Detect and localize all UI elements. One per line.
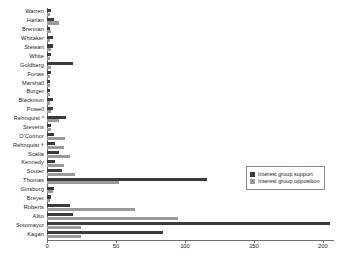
chart-row: Rehnquist † (47, 141, 334, 150)
bar-support (47, 80, 50, 83)
chart-row: Roberts (47, 203, 334, 212)
category-label: Scalia (28, 152, 44, 158)
bar-chart: WarrenHarlanBrennanWhitakerStewartWhiteG… (0, 0, 341, 266)
bar-opposition (47, 21, 59, 24)
bar-support (47, 213, 73, 216)
bar-opposition (47, 235, 81, 238)
bar-support (47, 36, 53, 39)
chart-row: Brennan (47, 26, 334, 35)
chart-row: Stewart (47, 44, 334, 53)
category-label: Whitaker (21, 36, 44, 42)
bar-support (47, 44, 53, 47)
bar-opposition (47, 208, 135, 211)
bar-support (47, 27, 50, 30)
bar-support (47, 116, 66, 119)
bar-opposition (47, 93, 50, 96)
x-tick-label: 100 (180, 244, 190, 250)
x-tick-label: 0 (45, 244, 48, 250)
category-label: Stewart (24, 45, 44, 51)
bar-opposition (47, 30, 51, 33)
chart-row: Kagan (47, 230, 334, 239)
bar-support (47, 107, 53, 110)
bar-opposition (47, 13, 50, 16)
bar-support (47, 195, 51, 198)
bar-opposition (47, 155, 70, 158)
bar-support (47, 71, 51, 74)
legend-label-support: Interest group support (258, 172, 313, 178)
category-label: Kagan (27, 232, 44, 238)
bar-support (47, 62, 73, 65)
chart-row: Alito (47, 212, 334, 221)
legend-swatch-support-icon (250, 172, 255, 177)
chart-row: Breyer (47, 195, 334, 204)
bar-support (47, 204, 70, 207)
legend-swatch-opposition-icon (250, 179, 255, 184)
category-label: Brennan (22, 27, 44, 33)
legend-item-support: Interest group support (250, 172, 320, 178)
category-label: Blackmun (19, 98, 44, 104)
category-label: Marshall (22, 81, 44, 87)
chart-row: Sotomayor (47, 221, 334, 230)
bar-opposition (47, 190, 53, 193)
bar-support (47, 98, 53, 101)
category-rows: WarrenHarlanBrennanWhitakerStewartWhiteG… (47, 8, 334, 239)
category-label: Rehnquist * (14, 116, 44, 122)
bar-opposition (47, 217, 178, 220)
bar-support (47, 18, 54, 21)
bar-opposition (47, 75, 50, 78)
category-label: Souter (27, 170, 44, 176)
category-label: Harlan (27, 19, 44, 25)
x-tick-label: 150 (249, 244, 259, 250)
bar-support (47, 222, 330, 225)
legend-item-opposition: Interest group opposition (250, 179, 320, 185)
bar-support (47, 142, 55, 145)
bar-opposition (47, 146, 64, 149)
bar-support (47, 53, 51, 56)
bar-opposition (47, 226, 81, 229)
category-label: Roberts (24, 205, 44, 211)
x-tick-label: 200 (318, 244, 328, 250)
chart-row: Stevens (47, 124, 334, 133)
bar-support (47, 9, 51, 12)
category-label: O'Connor (19, 134, 44, 140)
legend-label-opposition: Interest group opposition (258, 179, 320, 185)
bar-opposition (47, 137, 65, 140)
chart-row: Scalia (47, 150, 334, 159)
chart-row: Harlan (47, 17, 334, 26)
chart-row: Marshall (47, 79, 334, 88)
chart-row: Warren (47, 8, 334, 17)
category-label: Powell (27, 107, 44, 113)
bar-opposition (47, 39, 50, 42)
category-label: Fortas (27, 72, 44, 78)
chart-row: O'Connor (47, 132, 334, 141)
category-label: White (29, 54, 44, 60)
chart-row: Goldberg (47, 61, 334, 70)
bar-support (47, 160, 55, 163)
category-label: Stevens (23, 125, 44, 131)
category-label: Alito (33, 214, 44, 220)
bar-opposition (47, 181, 119, 184)
bar-opposition (47, 119, 59, 122)
bar-opposition (47, 173, 75, 176)
bar-support (47, 178, 207, 181)
chart-legend: Interest group support Interest group op… (246, 166, 325, 190)
category-label: Sotomayor (16, 223, 44, 229)
bar-support (47, 231, 163, 234)
category-label: Kennedy (21, 161, 44, 167)
bar-opposition (47, 199, 50, 202)
category-label: Breyer (27, 196, 44, 202)
bar-opposition (47, 84, 50, 87)
bar-support (47, 89, 50, 92)
bar-support (47, 124, 51, 127)
chart-row: Burger (47, 88, 334, 97)
plot-area: WarrenHarlanBrennanWhitakerStewartWhiteG… (47, 8, 334, 239)
chart-row: Whitaker (47, 35, 334, 44)
category-label: Ginsburg (20, 187, 44, 193)
bar-opposition (47, 128, 51, 131)
bar-support (47, 187, 54, 190)
bar-support (47, 151, 59, 154)
chart-row: Blackmun (47, 97, 334, 106)
bar-opposition (47, 48, 51, 51)
category-label: Warren (25, 10, 44, 16)
bar-opposition (47, 66, 51, 69)
